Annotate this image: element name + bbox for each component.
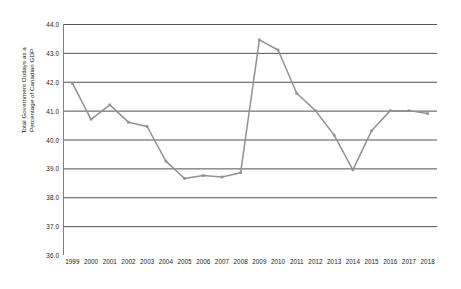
data-point-marker <box>108 104 111 107</box>
data-point-marker <box>146 125 149 128</box>
x-axis-tick-labels: 1999200020012002200320042005200620072008… <box>63 258 437 274</box>
y-axis-tick-label: 43.0 <box>23 49 59 56</box>
data-point-marker <box>277 49 280 52</box>
chart-container: Total Government Outlays as a Percentage… <box>0 0 461 289</box>
data-point-marker <box>295 92 298 95</box>
y-axis-tick-label: 38.0 <box>23 194 59 201</box>
data-point-marker <box>333 134 336 137</box>
data-point-marker <box>370 130 373 133</box>
line-chart-svg <box>63 24 437 255</box>
data-point-marker <box>408 109 411 112</box>
y-axis-tick-labels: 44.043.042.041.040.039.038.037.036.0 <box>20 0 59 289</box>
y-axis-tick-label: 40.0 <box>23 136 59 143</box>
data-point-marker <box>165 160 168 163</box>
data-point-marker <box>90 118 93 121</box>
plot-area <box>63 24 437 255</box>
data-series-line <box>72 40 427 179</box>
y-axis-tick-label: 41.0 <box>23 107 59 114</box>
data-point-marker <box>127 121 130 124</box>
data-point-marker <box>426 112 429 115</box>
data-point-marker <box>352 169 355 172</box>
y-axis-tick-label: 44.0 <box>23 21 59 28</box>
x-axis-tick-label: 2018 <box>410 258 446 265</box>
data-point-marker <box>183 177 186 180</box>
data-point-marker <box>239 171 242 174</box>
data-point-marker <box>314 109 317 112</box>
data-point-marker <box>221 176 224 179</box>
y-axis-tick-label: 37.0 <box>23 223 59 230</box>
y-axis-tick-label: 39.0 <box>23 165 59 172</box>
data-point-marker <box>202 174 205 177</box>
data-point-marker <box>258 39 261 42</box>
data-point-marker <box>71 82 74 85</box>
data-point-marker <box>389 109 392 112</box>
y-axis-tick-label: 42.0 <box>23 78 59 85</box>
